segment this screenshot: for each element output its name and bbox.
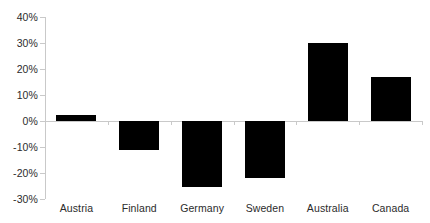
y-axis-tick: [40, 199, 45, 200]
y-axis-tick: [40, 43, 45, 44]
y-axis-tick-label: 20%: [0, 64, 38, 75]
x-axis-category-label: Germany: [171, 203, 234, 214]
bar: [182, 121, 222, 187]
y-axis-tick: [40, 95, 45, 96]
x-axis-tick: [234, 121, 235, 125]
bar: [119, 121, 159, 150]
y-axis-tick-label: -30%: [0, 194, 38, 205]
x-axis-tick: [296, 121, 297, 125]
y-axis-tick-label: 10%: [0, 90, 38, 101]
bar: [308, 43, 348, 121]
y-axis-tick-label: 0%: [0, 116, 38, 127]
y-axis-tick-label: -20%: [0, 168, 38, 179]
y-axis-tick-label: 30%: [0, 38, 38, 49]
bar-chart: 40%30%20%10%0%-10%-20%-30% AustriaFinlan…: [0, 0, 430, 223]
bar: [371, 77, 411, 121]
y-axis-tick: [40, 69, 45, 70]
x-axis-tick: [359, 121, 360, 125]
y-axis-tick: [40, 17, 45, 18]
y-axis-tick-label: 40%: [0, 12, 38, 23]
x-axis-tick: [171, 121, 172, 125]
x-axis-category-label: Austria: [45, 203, 108, 214]
x-axis-category-label: Canada: [359, 203, 422, 214]
y-axis-tick: [40, 147, 45, 148]
x-axis-category-label: Australia: [296, 203, 359, 214]
x-axis-tick: [45, 121, 46, 125]
y-axis-line: [45, 17, 46, 199]
x-axis-category-label: Sweden: [234, 203, 297, 214]
bar: [56, 115, 96, 122]
y-axis-tick-label: -10%: [0, 142, 38, 153]
bar: [245, 121, 285, 178]
x-axis-tick: [108, 121, 109, 125]
y-axis-tick: [40, 173, 45, 174]
x-axis-tick: [422, 121, 423, 125]
x-axis-category-label: Finland: [108, 203, 171, 214]
